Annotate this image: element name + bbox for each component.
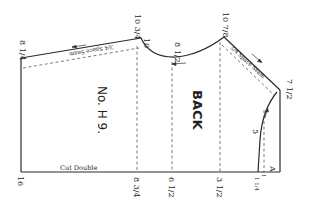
label-pattern-number: No. H 9. bbox=[95, 86, 109, 134]
label-top-left: 8 1/4 bbox=[18, 40, 27, 61]
label-curve-mark: 5 bbox=[251, 129, 260, 134]
pattern-diagram: 8 1/4 10 3/4 10 8 1/2 10 7/8 7 1/2 3/4 S… bbox=[0, 0, 310, 205]
arrow-left-icon bbox=[172, 63, 176, 66]
label-bottom-3: 3 1/2 bbox=[215, 177, 224, 198]
dashed-guides bbox=[23, 42, 274, 172]
label-neck-high: 10 7/8 bbox=[221, 12, 230, 38]
shoulder-seam-allowance bbox=[222, 45, 274, 95]
label-bottom-1: 8 3/4 bbox=[132, 177, 141, 198]
label-bottom-left: 16 bbox=[16, 176, 25, 186]
arrow-left-icon bbox=[72, 45, 77, 48]
label-top-mid-left: 10 3/4 bbox=[133, 14, 142, 40]
label-right-top: 7 1/2 bbox=[285, 79, 294, 100]
label-neck-low: 8 1/2 bbox=[173, 42, 182, 63]
label-top-mid-left-inner: 10 bbox=[142, 38, 151, 48]
label-corner-a: A bbox=[268, 165, 277, 172]
label-piece-name: BACK bbox=[190, 90, 205, 131]
labels: 8 1/4 10 3/4 10 8 1/2 10 7/8 7 1/2 3/4 S… bbox=[16, 12, 294, 198]
label-seam-top-left: 3/4 Space Seam bbox=[68, 43, 114, 58]
label-bottom-5: 1 bbox=[261, 174, 267, 178]
label-bottom-4: 1 1/4 bbox=[254, 177, 260, 192]
label-bottom-2: 6 1/2 bbox=[167, 177, 176, 198]
label-fold: Cut Double bbox=[60, 164, 97, 172]
pattern-svg: 8 1/4 10 3/4 10 8 1/2 10 7/8 7 1/2 3/4 S… bbox=[0, 0, 310, 205]
